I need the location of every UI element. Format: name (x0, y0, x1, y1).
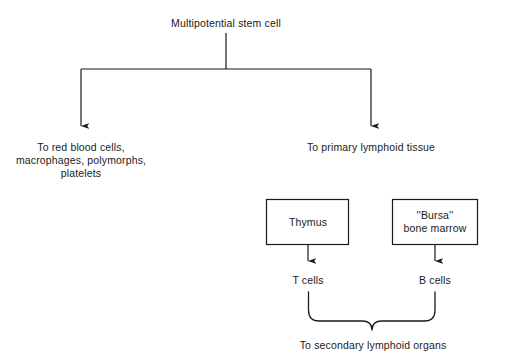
node-multipotential-stem-cell: Multipotential stem cell (171, 17, 281, 30)
label-secondary-lymphoid-organs: To secondary lymphoid organs (300, 339, 447, 352)
box-bursa-label-line1: ''Bursa'' (417, 209, 454, 221)
label-t-cells: T cells (292, 274, 323, 287)
brace-to-secondary-lymphoid-organs (309, 292, 436, 330)
label-branch-left-line3: platelets (61, 167, 101, 179)
diagram-connectors (0, 0, 506, 361)
label-b-cells: B cells (419, 274, 451, 287)
label-branch-right: To primary lymphoid tissue (307, 141, 435, 154)
box-bursa-label-line2: bone marrow (404, 222, 467, 234)
label-branch-left: To red blood cells, macrophages, polymor… (0, 141, 166, 180)
label-branch-left-line2: macrophages, polymorphs, (16, 154, 146, 166)
box-thymus-label: Thymus (289, 216, 327, 229)
label-branch-left-line1: To red blood cells, (37, 141, 124, 153)
box-bursa-label: ''Bursa'' bone marrow (404, 209, 467, 235)
flowchart-diagram: Multipotential stem cell To red blood ce… (0, 0, 506, 361)
